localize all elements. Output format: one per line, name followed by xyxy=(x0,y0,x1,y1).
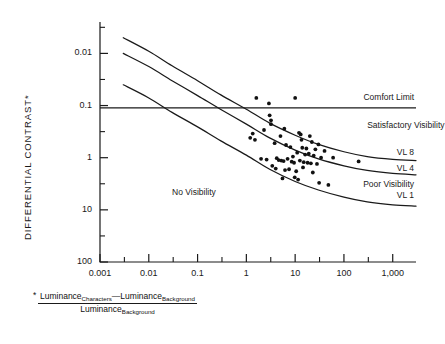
y-tick-label: 0.01 xyxy=(40,47,92,57)
data-point xyxy=(312,154,316,158)
x-tick-label: 1,000 xyxy=(363,268,423,278)
data-point xyxy=(248,136,252,140)
data-point xyxy=(294,169,298,173)
data-point xyxy=(274,167,278,171)
data-point xyxy=(295,151,299,155)
data-point xyxy=(269,122,273,126)
data-point xyxy=(331,156,335,160)
data-point xyxy=(289,145,293,149)
data-point xyxy=(293,175,297,179)
numerator-term-b: Luminance xyxy=(120,291,162,301)
data-point xyxy=(283,168,287,172)
data-point xyxy=(313,147,317,151)
denominator-term: Luminance xyxy=(80,304,122,314)
data-point xyxy=(306,161,310,165)
data-point xyxy=(308,134,312,138)
data-point xyxy=(357,159,361,163)
data-point xyxy=(254,96,258,100)
data-point xyxy=(304,147,308,151)
data-point xyxy=(300,146,304,150)
annotation-vl-8: VL 8 xyxy=(397,147,414,157)
data-point xyxy=(292,161,296,165)
data-point xyxy=(317,142,321,146)
data-point xyxy=(326,183,330,187)
data-point xyxy=(323,149,327,153)
data-point xyxy=(300,138,304,142)
denominator-term-sub: Background xyxy=(122,308,155,315)
data-point xyxy=(319,156,323,160)
annotation-poor-visibility: Poor Visibility xyxy=(363,179,414,189)
data-point xyxy=(270,164,274,168)
numerator-term-b-sub: Background xyxy=(162,295,195,302)
data-point xyxy=(281,177,285,181)
data-point xyxy=(299,132,303,136)
data-point xyxy=(287,167,291,171)
data-point xyxy=(267,101,271,105)
data-point xyxy=(291,155,295,159)
data-point xyxy=(301,166,305,170)
data-point xyxy=(262,128,266,132)
y-axis-title: DIFFERENTIAL CONTRAST* xyxy=(22,94,33,240)
data-point xyxy=(286,157,290,161)
numerator-term-a-sub: Characters xyxy=(82,295,112,302)
footnote-numerator: LuminanceCharacters—LuminanceBackground xyxy=(38,292,197,304)
data-point xyxy=(302,160,306,164)
data-point xyxy=(309,161,313,165)
data-point xyxy=(282,127,286,131)
footnote-asterisk: * xyxy=(33,291,36,301)
annotation-vl-4: VL 4 xyxy=(397,163,414,173)
data-point xyxy=(296,178,300,182)
scatter-points xyxy=(248,96,360,187)
data-point xyxy=(303,153,307,157)
annotation-comfort-limit: Comfort Limit xyxy=(363,92,414,102)
footnote-formula: * LuminanceCharacters—LuminanceBackgroun… xyxy=(38,292,197,315)
data-point xyxy=(311,171,315,175)
y-tick-label: 0.1 xyxy=(40,100,92,110)
y-tick-label: 1 xyxy=(40,152,92,162)
data-point xyxy=(279,134,283,138)
data-point xyxy=(253,138,257,142)
data-point xyxy=(317,181,321,185)
footnote-denominator: LuminanceBackground xyxy=(38,304,197,315)
data-point xyxy=(273,141,277,145)
data-point xyxy=(268,113,272,117)
data-point xyxy=(307,152,311,156)
annotation-satisfactory-visibility: Satisfactory Visibility xyxy=(367,120,444,130)
annotation-vl-1: VL 1 xyxy=(397,190,414,200)
data-point xyxy=(282,159,286,163)
annotation-no-visibility: No Visibility xyxy=(172,187,216,197)
data-point xyxy=(259,157,263,161)
data-point xyxy=(315,162,319,166)
data-point xyxy=(310,140,314,144)
data-point xyxy=(293,96,297,100)
data-point xyxy=(284,143,288,147)
y-tick-label: 100 xyxy=(40,256,92,266)
y-tick-label: 10 xyxy=(40,204,92,214)
data-point xyxy=(251,132,255,136)
numerator-term-a: Luminance xyxy=(40,291,82,301)
data-point xyxy=(265,158,269,162)
data-point xyxy=(298,159,302,163)
data-point xyxy=(269,118,273,122)
